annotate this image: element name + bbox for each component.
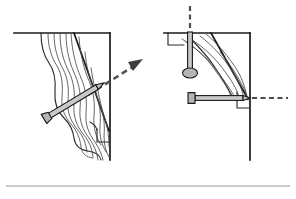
canvas-background — [0, 0, 296, 199]
nail-head — [183, 68, 198, 78]
woodworking-nailing-figure — [0, 0, 296, 199]
figure-canvas — [0, 0, 296, 199]
nail-shank — [195, 96, 243, 101]
nail-head — [188, 93, 195, 104]
nail-shank — [188, 32, 193, 70]
